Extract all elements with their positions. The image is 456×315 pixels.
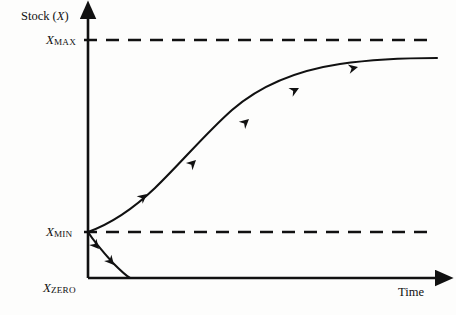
level-subscript-x-min: MIN [54,229,72,239]
growth-arrow-4 [288,84,301,97]
growth-curve-arrowheads [137,63,359,204]
decay-curve [88,232,130,278]
growth-curve [88,58,437,232]
chart-canvas [0,0,456,315]
level-label-x-min: XMIN [46,225,72,238]
growth-arrow-2 [186,157,199,170]
growth-arrow-5 [348,63,359,74]
level-label-x-max: XMAX [46,33,76,46]
level-variable-x-zero: X [43,280,51,295]
level-variable-x-max: X [46,32,54,47]
x-axis-label: Time [398,286,424,299]
level-subscript-x-zero: ZERO [51,285,76,295]
level-subscript-x-max: MAX [54,37,76,47]
level-label-x-zero: XZERO [43,281,76,294]
chart-figure: Stock (X) Time XMAX XMIN XZERO [0,0,456,315]
growth-arrow-3 [239,116,252,129]
y-axis-label-prefix: Stock ( [21,9,57,23]
level-variable-x-min: X [46,224,54,239]
y-axis-label: Stock (X) [21,10,69,23]
y-axis-label-suffix: ) [64,9,68,23]
